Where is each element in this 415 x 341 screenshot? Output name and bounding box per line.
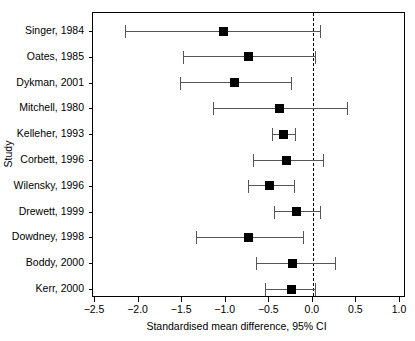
effect-estimate-marker	[244, 233, 253, 242]
x-axis-tick-label: −2.5	[84, 303, 105, 315]
ci-lower-cap	[265, 283, 266, 296]
y-axis-tick	[89, 263, 93, 264]
ci-upper-cap	[315, 283, 316, 296]
ci-upper-cap	[294, 180, 295, 193]
x-axis-tick-label: −0.5	[258, 303, 279, 315]
effect-estimate-marker	[230, 78, 239, 87]
x-axis-tick-label: −2.0	[127, 303, 148, 315]
study-label: Dowdney, 1998	[12, 230, 84, 242]
x-axis-tick-label: −1.5	[171, 303, 192, 315]
effect-estimate-marker	[244, 52, 253, 61]
study-label: Boddy, 2000	[26, 256, 84, 268]
plot-area	[92, 12, 405, 297]
y-axis-tick	[89, 212, 93, 213]
y-axis-tick	[89, 83, 93, 84]
x-axis-tick	[138, 297, 139, 302]
ci-lower-cap	[253, 154, 254, 167]
y-axis-tick	[89, 237, 93, 238]
study-label-column: Singer, 1984Oates, 1985Dykman, 2001Mitch…	[0, 12, 88, 297]
effect-estimate-marker	[279, 130, 288, 139]
study-label: Mitchell, 1980	[19, 101, 84, 113]
study-label: Drewett, 1999	[19, 205, 84, 217]
ci-upper-cap	[315, 51, 316, 64]
effect-estimate-marker	[219, 27, 228, 36]
ci-lower-cap	[125, 25, 126, 38]
x-axis-tick-label: 0.0	[305, 303, 320, 315]
y-axis-tick	[89, 134, 93, 135]
x-axis-title: Standardised mean difference, 95% CI	[0, 320, 415, 332]
y-axis-tick	[89, 31, 93, 32]
study-label: Oates, 1985	[27, 50, 84, 62]
ci-upper-cap	[303, 231, 304, 244]
ci-upper-cap	[295, 128, 296, 141]
study-label: Corbett, 1996	[20, 153, 84, 165]
y-axis-tick	[89, 108, 93, 109]
x-axis-tick	[312, 297, 313, 302]
ci-upper-cap	[335, 257, 336, 270]
x-axis-tick	[94, 297, 95, 302]
y-axis-tick	[89, 289, 93, 290]
ci-upper-cap	[291, 77, 292, 90]
x-axis-title-text: Standardised mean difference, 95% CI	[146, 320, 326, 332]
study-label: Wilensky, 1996	[14, 179, 84, 191]
y-axis-tick	[89, 160, 93, 161]
study-label: Dykman, 2001	[16, 76, 84, 88]
ci-lower-cap	[272, 128, 273, 141]
effect-estimate-marker	[288, 259, 297, 268]
ci-upper-cap	[320, 25, 321, 38]
effect-estimate-marker	[287, 285, 296, 294]
ci-lower-cap	[196, 231, 197, 244]
effect-estimate-marker	[265, 181, 274, 190]
y-axis-tick	[89, 57, 93, 58]
x-axis-tick	[225, 297, 226, 302]
ci-lower-cap	[180, 77, 181, 90]
ci-upper-cap	[347, 102, 348, 115]
x-axis-tick-label: −1.0	[214, 303, 235, 315]
x-axis-tick	[181, 297, 182, 302]
x-axis-tick	[399, 297, 400, 302]
ci-upper-cap	[323, 154, 324, 167]
study-label: Singer, 1984	[25, 24, 84, 36]
x-axis-tick	[355, 297, 356, 302]
x-axis-tick	[268, 297, 269, 302]
effect-estimate-marker	[282, 156, 291, 165]
study-label: Kerr, 2000	[36, 282, 84, 294]
ci-lower-cap	[274, 206, 275, 219]
effect-estimate-marker	[275, 104, 284, 113]
ci-lower-cap	[213, 102, 214, 115]
study-label: Kelleher, 1993	[17, 127, 84, 139]
effect-estimate-marker	[292, 207, 301, 216]
y-axis-tick	[89, 186, 93, 187]
ci-upper-cap	[320, 206, 321, 219]
ci-lower-cap	[183, 51, 184, 64]
x-axis-tick-labels: −2.5−2.0−1.5−1.0−0.50.00.51.0	[92, 303, 405, 317]
ci-lower-cap	[248, 180, 249, 193]
ci-lower-cap	[256, 257, 257, 270]
x-axis-tick-label: 1.0	[392, 303, 407, 315]
forest-plot-figure: Study Singer, 1984Oates, 1985Dykman, 200…	[0, 0, 415, 341]
x-axis-tick-label: 0.5	[348, 303, 363, 315]
